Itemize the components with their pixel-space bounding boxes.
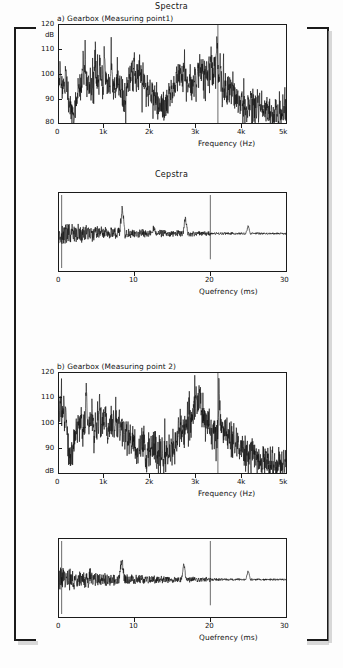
chart-cepstrum-a: Cepstra 0 10 20 30 Quefrency (ms): [0, 168, 343, 318]
figure-page: Spectra a) Gearbox (Measuring point1) 12…: [0, 0, 343, 668]
cepstrum-b-trace: [0, 528, 343, 668]
spectrum-b-trace: [0, 352, 343, 512]
chart-cepstrum-b: 0 10 20 30 Quefrency (ms): [0, 528, 343, 668]
cepstrum-a-trace: [0, 168, 343, 318]
spectrum-a-trace: [0, 0, 343, 160]
chart-spectrum-a: Spectra a) Gearbox (Measuring point1) 12…: [0, 0, 343, 160]
chart-spectrum-b: b) Gearbox (Measuring point 2) 120 110 1…: [0, 352, 343, 512]
